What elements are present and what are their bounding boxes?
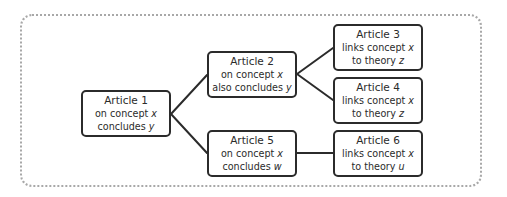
node-article-2: Article 2 on concept x also concludes y bbox=[207, 51, 297, 98]
node-line-1: on concept x bbox=[221, 68, 283, 81]
node-article-6: Article 6 links concept x to theory u bbox=[333, 130, 423, 177]
node-title: Article 1 bbox=[104, 94, 148, 107]
edge-article-2-to-article-4 bbox=[297, 74, 333, 100]
node-line-1: on concept x bbox=[221, 147, 283, 160]
node-line-1: on concept x bbox=[95, 107, 157, 120]
node-line-1: links concept x bbox=[342, 147, 414, 160]
edge-article-2-to-article-3 bbox=[297, 48, 333, 74]
node-title: Article 4 bbox=[356, 81, 400, 94]
node-line-2: to theory z bbox=[352, 107, 404, 120]
node-title: Article 5 bbox=[230, 134, 274, 147]
node-line-2: concludes y bbox=[98, 120, 155, 133]
node-title: Article 6 bbox=[356, 134, 400, 147]
node-title: Article 2 bbox=[230, 55, 274, 68]
node-article-5: Article 5 on concept x concludes w bbox=[207, 130, 297, 177]
node-line-2: concludes w bbox=[222, 160, 281, 173]
node-article-1: Article 1 on concept x concludes y bbox=[81, 90, 171, 137]
node-line-1: links concept x bbox=[342, 41, 414, 54]
edge-article-1-to-article-5 bbox=[171, 114, 207, 153]
node-line-2: to theory u bbox=[351, 160, 404, 173]
node-article-3: Article 3 links concept x to theory z bbox=[333, 24, 423, 71]
node-line-2: also concludes y bbox=[212, 81, 291, 94]
node-line-1: links concept x bbox=[342, 94, 414, 107]
node-article-4: Article 4 links concept x to theory z bbox=[333, 77, 423, 124]
edge-article-1-to-article-2 bbox=[171, 75, 207, 114]
node-line-2: to theory z bbox=[352, 54, 404, 67]
node-title: Article 3 bbox=[356, 28, 400, 41]
